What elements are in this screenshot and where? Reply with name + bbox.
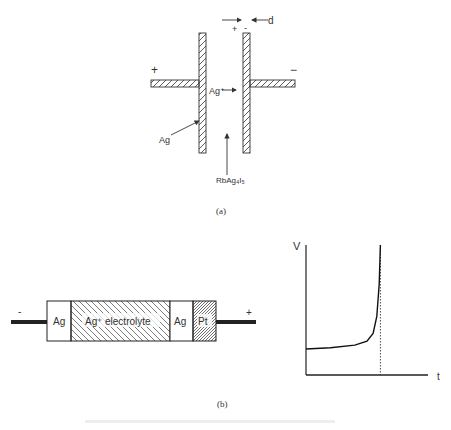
figure-a: + − d + - Ag⁺ Ag RbAg₄I₅ (a) (151, 15, 297, 216)
caption-a: (a) (216, 206, 226, 216)
terminal-positive: + (246, 307, 252, 318)
figure-b-cell: - + Ag Ag⁺ electrolyte Ag Pt (11, 301, 256, 341)
ion-label: Ag⁺ (209, 86, 225, 96)
electrolyte-label: RbAg₄I₅ (216, 176, 245, 185)
silver-pointer (171, 121, 199, 135)
y-axis-label: V (293, 240, 301, 252)
segment-label-pt: Pt (198, 316, 208, 327)
gap-plus: + (232, 24, 237, 34)
x-axis-label: t (437, 371, 440, 382)
figure-b-graph: V t (293, 240, 440, 382)
figure-canvas: + − d + - Ag⁺ Ag RbAg₄I₅ (a) - + Ag Ag⁺ … (0, 0, 451, 430)
terminal-negative: - (18, 306, 21, 317)
segment-label-ag-left: Ag (53, 316, 65, 327)
gap-minus: - (244, 23, 247, 33)
left-lead (151, 80, 199, 87)
silver-label: Ag (159, 135, 170, 145)
figure-caption-faint (85, 420, 335, 423)
gap-label: d (268, 15, 274, 26)
voltage-curve (306, 245, 380, 349)
minus-sign-right: − (290, 63, 297, 77)
right-lead (250, 80, 295, 87)
caption-b: (b) (217, 399, 228, 409)
segment-label-ag-right: Ag (174, 316, 186, 327)
right-electrode-plate (243, 33, 250, 153)
segment-label-electrolyte: Ag⁺ electrolyte (85, 316, 151, 327)
left-electrode-plate (199, 33, 206, 153)
plus-sign-left: + (151, 63, 158, 77)
